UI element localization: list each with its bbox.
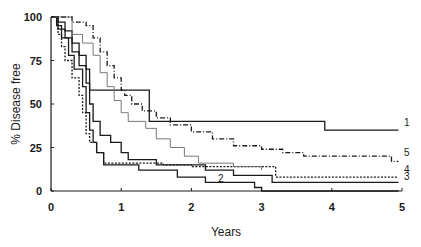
x-ticks: 012345 (48, 188, 405, 213)
x-axis-title: Years (211, 225, 241, 239)
x-tick-label: 4 (329, 201, 336, 213)
survival-curve-unlabeled (51, 17, 262, 170)
y-tick-label: 50 (30, 98, 42, 110)
x-tick-label: 0 (48, 201, 54, 213)
survival-curve-1 (51, 17, 398, 130)
y-tick-label: 0 (36, 185, 42, 197)
curve-label: 1 (404, 117, 410, 128)
y-ticks: 0255075100 (24, 11, 54, 197)
y-tick-label: 75 (30, 55, 42, 67)
chart-canvas: 12345 012345 0255075100 Years % Disease … (0, 0, 421, 247)
y-axis-title: % Disease free (9, 63, 23, 145)
plot-area: 12345 (51, 17, 410, 191)
curve-label: 5 (404, 147, 410, 158)
x-tick-label: 5 (399, 201, 405, 213)
curve-label: 2 (218, 173, 224, 184)
curve-label: 4 (404, 164, 410, 175)
x-tick-label: 1 (118, 201, 124, 213)
survival-curve-2 (51, 17, 398, 191)
x-tick-label: 3 (259, 201, 265, 213)
x-tick-label: 2 (188, 201, 194, 213)
survival-curve-5 (51, 17, 398, 161)
y-tick-label: 25 (30, 142, 42, 154)
y-tick-label: 100 (24, 11, 42, 23)
